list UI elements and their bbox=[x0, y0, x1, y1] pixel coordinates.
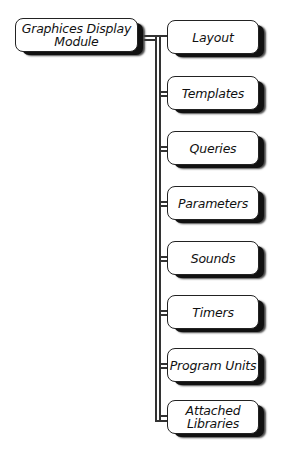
root-connector-bottom bbox=[138, 39, 155, 41]
branch-connector bbox=[159, 201, 167, 203]
node-label-line1: Layout bbox=[192, 31, 233, 44]
node-layout: Layout bbox=[167, 20, 259, 54]
node-label: Sounds bbox=[191, 252, 236, 265]
node-timers: Timers bbox=[167, 295, 259, 329]
branch-connector bbox=[159, 310, 167, 312]
branch-connector bbox=[159, 367, 167, 369]
node-label-line1: Sounds bbox=[191, 252, 236, 265]
root-node: Graphices Display Module bbox=[15, 18, 138, 52]
trunk-line-left bbox=[155, 37, 157, 421]
node-label-line1: Parameters bbox=[178, 197, 248, 210]
branch-connector bbox=[159, 91, 167, 93]
branch-connector bbox=[159, 146, 167, 148]
node-label-line1: Queries bbox=[190, 142, 237, 155]
branch-connector bbox=[159, 260, 167, 262]
node-templates: Templates bbox=[167, 76, 259, 110]
branch-connector bbox=[159, 415, 167, 417]
node-label-line1: Timers bbox=[192, 306, 233, 319]
node-label: Queries bbox=[190, 142, 237, 155]
root-label-line2: Module bbox=[22, 35, 132, 48]
node-label: Templates bbox=[182, 87, 244, 100]
node-label-line1: Program Units bbox=[170, 359, 257, 372]
node-attached-libraries: Attached Libraries bbox=[167, 400, 259, 434]
node-sounds: Sounds bbox=[167, 241, 259, 275]
node-label: Attached Libraries bbox=[186, 404, 241, 430]
node-label: Timers bbox=[192, 306, 233, 319]
branch-connector bbox=[159, 314, 167, 316]
branch-connector bbox=[159, 205, 167, 207]
branch-connector bbox=[159, 150, 167, 152]
branch-connector bbox=[159, 256, 167, 258]
node-label: Layout bbox=[192, 31, 233, 44]
root-connector-top bbox=[138, 35, 168, 37]
node-label-line2: Libraries bbox=[186, 417, 241, 430]
node-program-units: Program Units bbox=[167, 348, 259, 382]
node-label: Program Units bbox=[170, 359, 257, 372]
node-queries: Queries bbox=[167, 131, 259, 165]
branch-connector bbox=[159, 95, 167, 97]
branch-connector bbox=[159, 363, 167, 365]
branch-connector bbox=[155, 420, 167, 422]
node-label-line1: Templates bbox=[182, 87, 244, 100]
node-label: Parameters bbox=[178, 197, 248, 210]
node-parameters: Parameters bbox=[167, 186, 259, 220]
root-node-label: Graphices Display Module bbox=[22, 22, 132, 48]
